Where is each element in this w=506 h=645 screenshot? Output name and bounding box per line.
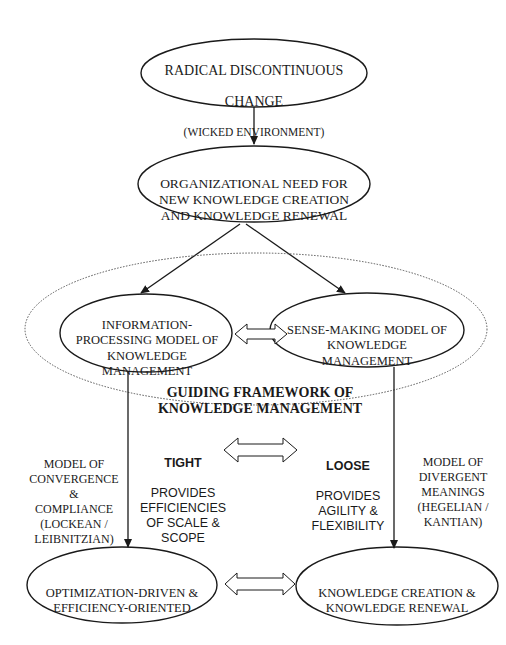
guiding-framework-text: GUIDING FRAMEWORK OF KNOWLEDGE MANAGEMEN… [150, 385, 370, 417]
loose-text: PROVIDES AGILITY & FLEXIBILITY [305, 489, 391, 534]
knowledge-creation-text: KNOWLEDGE CREATION & KNOWLEDGE RENEWAL [302, 586, 492, 617]
convergence-model-text: MODEL OF CONVERGENCE & COMPLIANCE (LOCKE… [24, 457, 124, 547]
divergent-model-annotation: MODEL OF DIVERGENT MEANINGS (HEGELIAN / … [403, 440, 503, 545]
knowledge-creation-label: KNOWLEDGE CREATION & KNOWLEDGE RENEWAL [302, 570, 492, 632]
radical-change-label: RADICAL DISCONTINUOUS CHANGE (WICKED ENV… [154, 48, 354, 155]
sense-making-text: SENSE-MAKING MODEL OF KNOWLEDGE MANAGEME… [272, 323, 462, 370]
radical-change-line1: RADICAL DISCONTINUOUS [154, 63, 354, 79]
radical-change-line3: (WICKED ENVIRONMENT) [154, 125, 354, 140]
organizational-need-label: ORGANIZATIONAL NEED FOR NEW KNOWLEDGE CR… [144, 160, 364, 240]
double-arrow-outcomes [225, 573, 295, 595]
guiding-framework-label: GUIDING FRAMEWORK OF KNOWLEDGE MANAGEMEN… [150, 369, 370, 433]
double-arrow-tight-loose [224, 438, 297, 462]
knowledge-management-diagram: RADICAL DISCONTINUOUS CHANGE (WICKED ENV… [0, 0, 506, 645]
optimization-driven-text: OPTIMIZATION-DRIVEN & EFFICIENCY-ORIENTE… [32, 586, 212, 617]
optimization-driven-label: OPTIMIZATION-DRIVEN & EFFICIENCY-ORIENTE… [32, 570, 212, 632]
convergence-model-annotation: MODEL OF CONVERGENCE & COMPLIANCE (LOCKE… [24, 442, 124, 562]
divergent-model-text: MODEL OF DIVERGENT MEANINGS (HEGELIAN / … [403, 455, 503, 530]
tight-annotation: TIGHT PROVIDES EFFICIENCIES OF SCALE & S… [138, 441, 228, 561]
organizational-need-text: ORGANIZATIONAL NEED FOR NEW KNOWLEDGE CR… [144, 176, 364, 224]
tight-heading: TIGHT [138, 456, 228, 471]
loose-annotation: LOOSE PROVIDES AGILITY & FLEXIBILITY [305, 444, 391, 549]
radical-change-line2: CHANGE [154, 94, 354, 110]
tight-text: PROVIDES EFFICIENCIES OF SCALE & SCOPE [138, 486, 228, 546]
loose-heading: LOOSE [305, 459, 391, 474]
